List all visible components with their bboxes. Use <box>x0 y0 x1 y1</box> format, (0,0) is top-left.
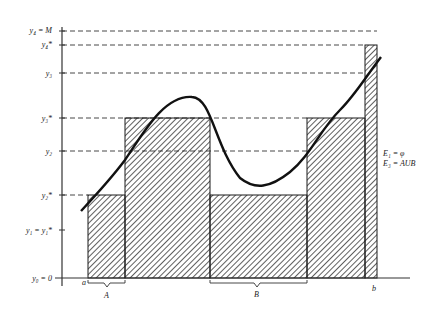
legend: E₁ = φ E₃ = AUB <box>382 149 416 168</box>
label-y3-star: y₃* <box>41 114 52 123</box>
label-y3: y₃ <box>45 69 53 78</box>
label-A: A <box>103 291 109 300</box>
label-y2: y₂ <box>45 147 53 156</box>
step-function-diagram: y₄ = M y₄* y₃ y₃* y₂ y₂* y₁ = y₁* y₀ = 0… <box>0 0 437 312</box>
label-y0: y₀ = 0 <box>31 274 52 283</box>
brace-A <box>88 280 125 287</box>
label-b: b <box>372 284 376 293</box>
label-y2-star: y₂* <box>41 191 52 200</box>
brace-B <box>210 280 307 287</box>
label-B: B <box>254 290 259 299</box>
step-rect-1 <box>88 195 125 278</box>
legend-E1: E₁ = φ <box>382 149 405 158</box>
label-y4-M: y₄ = M <box>29 26 54 35</box>
step-rect-3 <box>210 195 307 278</box>
label-a: a <box>82 278 86 287</box>
legend-E3: E₃ = AUB <box>382 159 416 168</box>
step-rectangles <box>88 45 377 278</box>
step-rect-5 <box>365 45 377 278</box>
label-y4-star: y₄* <box>41 40 52 49</box>
label-y1: y₁ = y₁* <box>25 226 52 235</box>
y-axis-labels: y₄ = M y₄* y₃ y₃* y₂ y₂* y₁ = y₁* y₀ = 0 <box>25 26 53 283</box>
